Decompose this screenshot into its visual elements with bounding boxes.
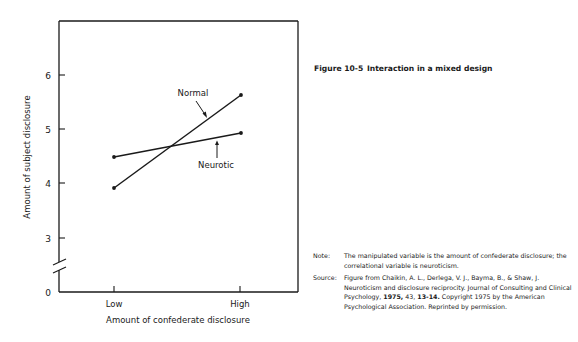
neurotic-series-label: Neurotic — [198, 160, 234, 170]
x-ticks — [114, 286, 240, 292]
source-row: Source: Figure from Chaikin, A. L., Derl… — [313, 273, 575, 311]
source-volume: 43, — [403, 293, 417, 300]
y-axis-title: Amount of subject disclosure — [22, 95, 32, 218]
figure-notes: Note: The manipulated variable is the am… — [313, 251, 575, 315]
y-ticks — [59, 75, 65, 238]
figure-number: Figure 10-5 — [314, 64, 367, 73]
normal-point-low — [112, 186, 116, 190]
series-neurotic — [112, 131, 243, 159]
y-tick-label-5: 5 — [45, 125, 51, 135]
note-key: Note: — [313, 251, 344, 270]
normal-line — [114, 95, 241, 188]
y-tick-label-4: 4 — [45, 179, 51, 189]
source-key: Source: — [313, 273, 344, 311]
x-category-high: High — [230, 299, 250, 309]
normal-arrow-icon — [196, 101, 207, 118]
source-text: Figure from Chaikin, A. L., Derlega, V. … — [344, 273, 575, 311]
normal-series-label: Normal — [178, 88, 209, 98]
series-normal — [112, 93, 243, 190]
note-text: The manipulated variable is the amount o… — [344, 251, 575, 270]
neurotic-line — [114, 133, 241, 157]
figure-title: Interaction in a mixed design — [367, 64, 493, 73]
y-tick-label-3: 3 — [45, 234, 51, 244]
y-tick-label-0: 0 — [45, 288, 51, 298]
source-pages: 13-14. — [417, 293, 440, 300]
x-category-low: Low — [106, 299, 123, 309]
neurotic-point-low — [112, 155, 116, 159]
source-year: 1975, — [383, 293, 403, 300]
figure-caption: Figure 10-5Interaction in a mixed design — [314, 64, 493, 73]
neurotic-arrow-icon — [215, 141, 219, 159]
note-row: Note: The manipulated variable is the am… — [313, 251, 575, 270]
plot-frame — [59, 21, 298, 292]
x-axis-title: Amount of confederate disclosure — [106, 315, 250, 325]
neurotic-point-high — [239, 131, 243, 135]
normal-point-high — [239, 93, 243, 97]
y-tick-label-6: 6 — [45, 71, 51, 81]
